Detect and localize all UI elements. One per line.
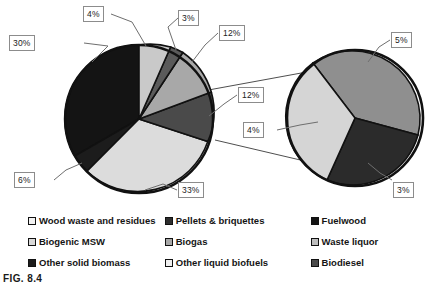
legend-swatch-icon	[165, 238, 173, 246]
legend-item-label: Biogas	[176, 236, 208, 247]
legend-swatch-icon	[311, 217, 319, 225]
legend-item-fuelwood[interactable]: Fuelwood	[311, 215, 420, 226]
callout-detail-4: 4%	[243, 122, 264, 138]
legend-item-biogenic-msw[interactable]: Biogenic MSW	[28, 236, 165, 247]
legend-item-label: Pellets & briquettes	[176, 215, 265, 226]
legend-swatch-icon	[311, 238, 319, 246]
legend-swatch-icon	[28, 259, 36, 267]
figure-container: 4% 3% 12% 30% 12% 6% 33% 5% 4% 3% Wood w…	[0, 0, 429, 292]
legend-item-pellets-and-briquettes[interactable]: Pellets & briquettes	[165, 215, 311, 226]
legend-item-label: Wood waste and residues	[39, 215, 156, 226]
legend-item-other-solid-biomass[interactable]: Other solid biomass	[28, 257, 165, 268]
legend-item-label: Biogenic MSW	[39, 236, 105, 247]
callout-main-30: 30%	[9, 35, 35, 51]
legend-row: Biogenic MSW Biogas Waste liquor	[28, 231, 420, 252]
callout-main-33: 33%	[178, 182, 204, 198]
callout-detail-5: 5%	[391, 32, 412, 48]
legend-swatch-icon	[165, 217, 173, 225]
legend-swatch-icon	[28, 238, 36, 246]
callout-main-12-mid: 12%	[238, 87, 264, 103]
chart-legend: Wood waste and residues Pellets & brique…	[28, 210, 420, 273]
legend-item-biodiesel[interactable]: Biodiesel	[311, 257, 420, 268]
legend-item-label: Waste liquor	[322, 236, 379, 247]
legend-item-waste-liquor[interactable]: Waste liquor	[311, 236, 420, 247]
legend-swatch-icon	[311, 259, 319, 267]
legend-row: Wood waste and residues Pellets & brique…	[28, 210, 420, 231]
legend-item-other-liquid-biofuels[interactable]: Other liquid biofuels	[165, 257, 311, 268]
legend-item-label: Other liquid biofuels	[176, 257, 268, 268]
legend-swatch-icon	[165, 259, 173, 267]
callout-detail-3: 3%	[393, 182, 414, 198]
callout-main-4: 4%	[83, 6, 104, 22]
legend-item-label: Other solid biomass	[39, 257, 130, 268]
main-pie	[65, 44, 214, 193]
callout-main-6: 6%	[14, 172, 35, 188]
detail-pie	[286, 50, 423, 186]
figure-caption: FIG. 8.4	[3, 273, 42, 284]
callout-main-12-top: 12%	[219, 25, 245, 41]
legend-item-biogas[interactable]: Biogas	[165, 236, 311, 247]
legend-item-label: Fuelwood	[322, 215, 366, 226]
legend-row: Other solid biomass Other liquid biofuel…	[28, 252, 420, 273]
legend-item-wood-waste-and-residues[interactable]: Wood waste and residues	[28, 215, 165, 226]
callout-main-3: 3%	[178, 10, 199, 26]
legend-item-label: Biodiesel	[322, 257, 364, 268]
legend-swatch-icon	[28, 217, 36, 225]
